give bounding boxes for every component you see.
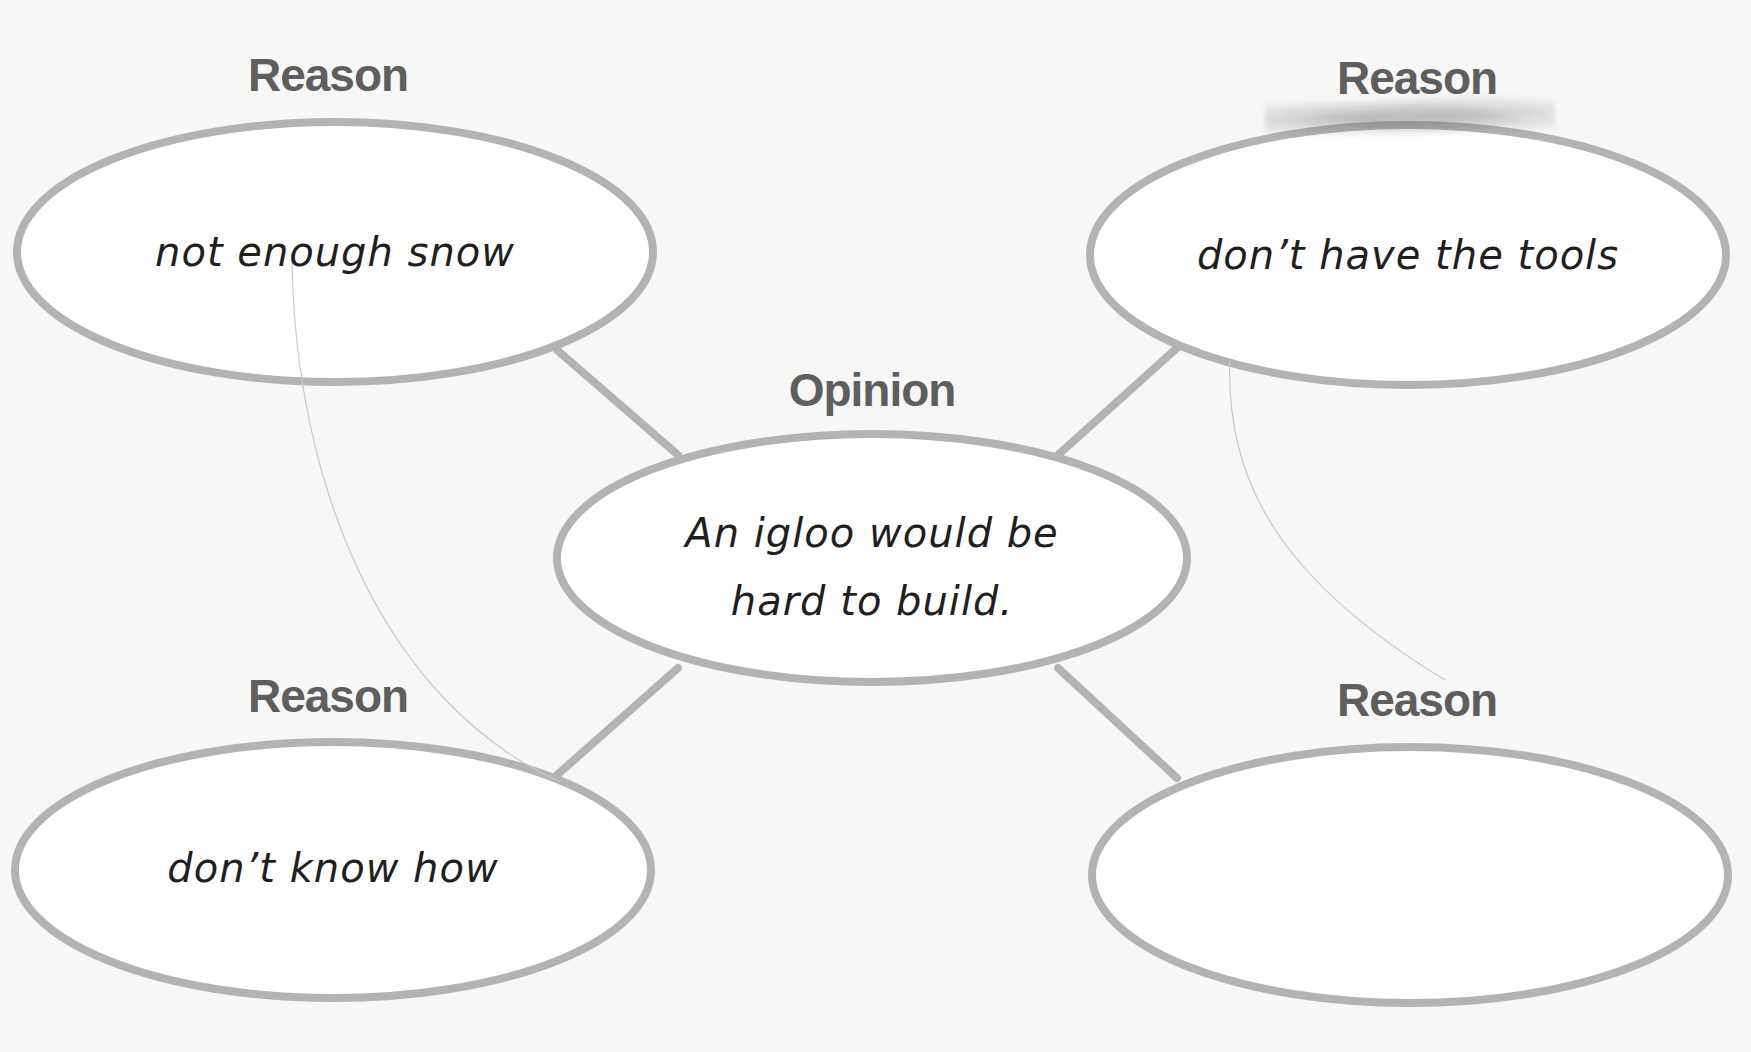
opinion-text-line-1: An igloo would be [685,499,1058,567]
connector-bottom-left [557,668,678,775]
reason-bubble-bottom-right [1092,747,1728,1003]
reason-heading-top-left: Reason [248,52,408,98]
connector-top-left [557,350,678,455]
reason-text-top-left: not enough snow [155,218,515,286]
connector-bottom-right [1058,668,1177,778]
reason-heading-bottom-left: Reason [248,673,408,719]
reason-text-top-right: don’t have the tools [1197,221,1619,289]
opinion-heading: Opinion [789,367,956,413]
opinion-text: An igloo would be hard to build. [685,499,1058,635]
reason-heading-top-right: Reason [1337,55,1497,101]
opinion-text-line-2: hard to build. [685,567,1058,635]
reason-heading-bottom-right: Reason [1337,677,1497,723]
reason-text-bottom-left: don’t know how [167,834,498,902]
paper-crease-line-right [1230,360,1445,680]
connector-top-right [1058,348,1177,455]
